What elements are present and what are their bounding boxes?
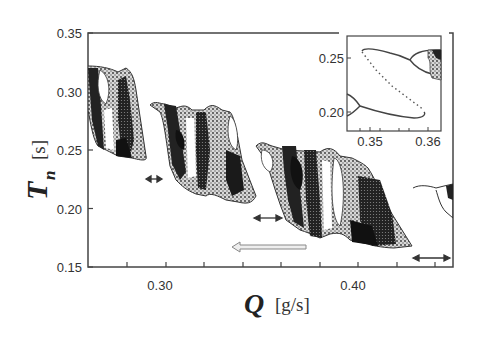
- y-tick-0.20: 0.20: [57, 202, 82, 217]
- y-axis-variable: T: [20, 180, 53, 200]
- x-tick-0.30: 0.30: [147, 278, 172, 293]
- x-axis-title: Q [g/s]: [244, 288, 310, 319]
- inset-x-tick-0.35: 0.35: [357, 134, 382, 149]
- y-tick-0.25: 0.25: [57, 143, 82, 158]
- inset-y-tick-0.20: 0.20: [319, 105, 344, 120]
- y-axis-subscript: n: [40, 171, 59, 180]
- x-axis-variable: Q: [244, 288, 264, 319]
- bifurcation-band-3: [256, 143, 412, 248]
- bifurcation-band-4: [413, 184, 453, 218]
- hysteresis-arrow-3: [413, 255, 450, 261]
- y-tick-0.30: 0.30: [57, 85, 82, 100]
- y-tick-0.15: 0.15: [57, 260, 82, 275]
- inset-x-tick-0.36: 0.36: [415, 134, 440, 149]
- hysteresis-arrow-1: [146, 176, 162, 182]
- x-axis-unit: [g/s]: [275, 294, 310, 315]
- bifurcation-band-2: [150, 102, 256, 203]
- y-tick-0.35: 0.35: [57, 26, 82, 41]
- y-axis-title: T n [s]: [20, 140, 59, 200]
- bifurcation-figure: 0.35 0.30 0.25 0.20 0.15 0.30 0.40 Q [g/…: [0, 0, 479, 340]
- hysteresis-arrow-2: [254, 215, 282, 221]
- bifurcation-band-1: [88, 66, 146, 160]
- y-tick-labels: 0.35 0.30 0.25 0.20 0.15: [57, 26, 82, 275]
- inset-y-tick-0.25: 0.25: [319, 51, 344, 66]
- x-tick-0.40: 0.40: [340, 278, 365, 293]
- inset-chart: 0.25 0.20 0.35 0.36: [319, 30, 449, 149]
- direction-arrow-left: [232, 242, 306, 252]
- y-axis-unit: [s]: [28, 140, 49, 160]
